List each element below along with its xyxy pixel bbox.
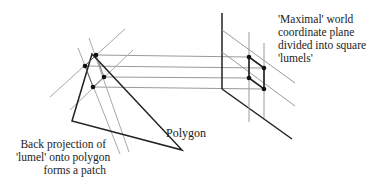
projection-rays — [85, 55, 264, 89]
patch-outline — [85, 55, 104, 87]
diagram-canvas: 'Maximal' world coordinate plane divided… — [0, 0, 375, 186]
patch-grid-lines — [50, 29, 133, 154]
lumel-square — [249, 57, 264, 89]
patch-label: Back projection of 'lumel' onto polygon … — [16, 138, 106, 177]
polygon-label: Polygon — [166, 127, 206, 140]
plane-label: 'Maximal' world coordinate plane divided… — [278, 13, 366, 65]
